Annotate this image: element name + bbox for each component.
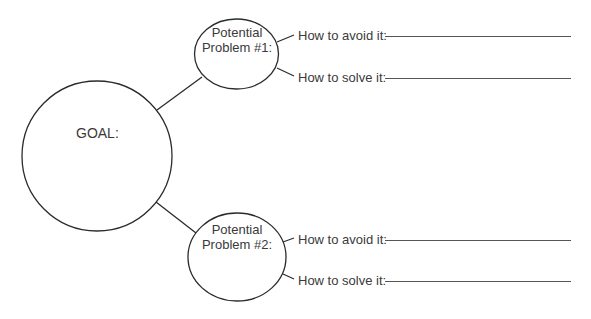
problem-2-avoid-field[interactable]: [385, 240, 571, 241]
problem-2-title-line1: Potential: [196, 222, 278, 237]
problem-1-title-line2: Problem #1:: [196, 40, 278, 55]
goal-circle: [22, 81, 172, 231]
diagram-shapes: [0, 0, 591, 319]
problem-1-solve-field[interactable]: [385, 78, 571, 79]
connector-goal-problem-1: [157, 77, 202, 110]
goal-label: GOAL:: [76, 126, 119, 141]
connector-p2-avoid: [283, 238, 294, 242]
connector-p1-avoid: [277, 35, 294, 42]
problem-1-avoid-label: How to avoid it:: [298, 28, 387, 43]
problem-1-solve-label: How to solve it:: [298, 70, 386, 85]
problem-2-solve-label: How to solve it:: [298, 273, 386, 288]
connector-p1-solve: [277, 68, 294, 76]
problem-2-solve-field[interactable]: [385, 281, 571, 282]
connector-goal-problem-2: [156, 202, 196, 233]
problem-2-title: Potential Problem #2:: [196, 222, 278, 252]
problem-1-avoid-field[interactable]: [385, 36, 571, 37]
problem-2-title-line2: Problem #2:: [196, 237, 278, 252]
problem-1-title-line1: Potential: [196, 25, 278, 40]
problem-2-avoid-label: How to avoid it:: [298, 232, 387, 247]
problem-1-title: Potential Problem #1:: [196, 25, 278, 55]
connector-p2-solve: [283, 274, 294, 279]
